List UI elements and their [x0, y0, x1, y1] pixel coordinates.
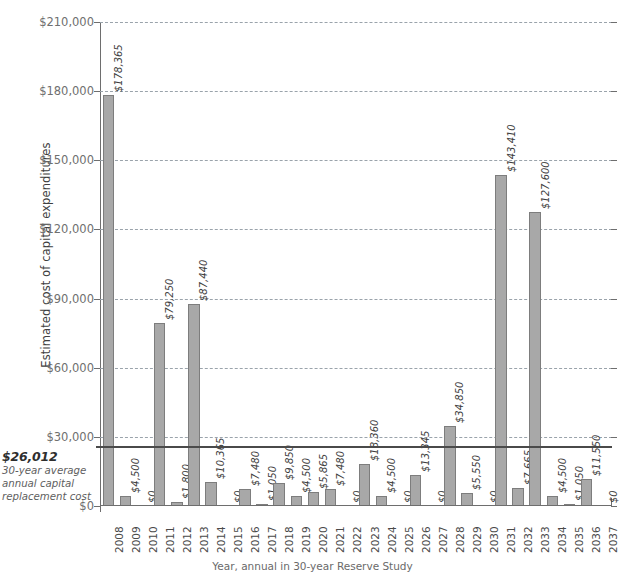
x-axis-label-2016: 2016: [249, 526, 261, 553]
bar-2032: [512, 488, 524, 506]
bar-2013: [188, 304, 200, 506]
bar-label-2019: $4,500: [301, 458, 312, 493]
chart-root: Estimated cost of capital expenditures $…: [0, 0, 625, 572]
average-desc-line-3: replacement cost: [2, 491, 96, 504]
x-axis-label-2030: 2030: [488, 526, 500, 553]
x-axis-label-2023: 2023: [369, 526, 381, 553]
x-axis-label-2037: 2037: [607, 526, 619, 553]
bar-2031: [495, 175, 507, 506]
y-axis-tick-label: $120,000: [39, 222, 94, 236]
bar-label-2034: $4,500: [557, 458, 568, 493]
bar-label-2031: $143,410: [506, 125, 517, 173]
x-axis-label-2022: 2022: [351, 526, 363, 553]
x-axis-label-2025: 2025: [403, 526, 415, 553]
x-axis-label-2035: 2035: [573, 526, 585, 553]
chart-caption: Year, annual in 30-year Reserve Study: [0, 560, 625, 572]
bar-2023: [359, 464, 371, 506]
x-axis-label-2036: 2036: [590, 526, 602, 553]
x-axis-label-2018: 2018: [283, 526, 295, 553]
x-axis-label-2017: 2017: [266, 526, 278, 553]
bar-label-2036: $11,550: [591, 435, 602, 476]
bar-series: $178,365$4,500$0$79,250$1,800$87,440$10,…: [100, 22, 612, 506]
average-description: 30-year average annual capital replaceme…: [2, 465, 96, 503]
x-axis-label-2026: 2026: [420, 526, 432, 553]
bar-label-2023: $18,360: [369, 419, 380, 460]
y-axis-tick-label: $30,000: [46, 430, 94, 444]
x-axis-line: [100, 505, 612, 506]
bar-2008: [103, 95, 115, 506]
x-axis-label-2024: 2024: [386, 526, 398, 553]
x-axis-label-2020: 2020: [317, 526, 329, 553]
bar-2014: [205, 482, 217, 506]
x-axis-label-2028: 2028: [454, 526, 466, 553]
x-axis-label-2013: 2013: [198, 526, 210, 553]
bar-label-2014: $10,365: [215, 438, 226, 479]
x-axis-label-2012: 2012: [181, 526, 193, 553]
x-axis-label-2019: 2019: [300, 526, 312, 553]
y-axis-tick-labels: $0$30,000$60,000$90,000$120,000$150,000$…: [0, 22, 94, 506]
x-axis-label-2008: 2008: [113, 526, 125, 553]
bar-2026: [410, 475, 422, 506]
average-line: [96, 446, 612, 448]
x-axis-label-2034: 2034: [556, 526, 568, 553]
y-axis-tick-label: $180,000: [39, 84, 94, 98]
plot-area: $178,365$4,500$0$79,250$1,800$87,440$10,…: [100, 22, 612, 506]
average-annotation: $26,012 30-year average annual capital r…: [2, 449, 96, 503]
x-axis-label-2033: 2033: [539, 526, 551, 553]
x-axis-label-2029: 2029: [471, 526, 483, 553]
bar-2021: [325, 489, 337, 506]
bar-2018: [273, 483, 285, 506]
bar-label-2026: $13,345: [420, 431, 431, 472]
x-axis-label-2010: 2010: [147, 526, 159, 553]
bar-label-2024: $4,500: [386, 458, 397, 493]
x-axis-label-2009: 2009: [130, 526, 142, 553]
bar-2028: [444, 426, 456, 506]
bar-2016: [239, 489, 251, 506]
y-axis-tick-label: $60,000: [46, 361, 94, 375]
bar-label-2021: $7,480: [335, 451, 346, 486]
y-axis-tick-label: $90,000: [46, 292, 94, 306]
x-axis-label-2014: 2014: [215, 526, 227, 553]
bar-label-2018: $9,850: [284, 445, 295, 480]
bar-label-2008: $178,365: [113, 44, 124, 92]
x-axis-label-2011: 2011: [164, 526, 176, 553]
bar-label-2037: $0: [608, 490, 619, 503]
bar-label-2020: $5,865: [318, 454, 329, 489]
bar-label-2016: $7,480: [250, 451, 261, 486]
average-desc-line-1: 30-year average: [2, 465, 96, 478]
y-axis-tick-label: $150,000: [39, 153, 94, 167]
x-axis-tick-labels: 2008200920102011201220132014201520162017…: [100, 509, 612, 555]
x-axis-label-2027: 2027: [437, 526, 449, 553]
bar-2033: [529, 212, 541, 506]
bar-label-2013: $87,440: [198, 260, 209, 301]
average-value: $26,012: [2, 449, 96, 464]
x-axis-label-2031: 2031: [505, 526, 517, 553]
average-desc-line-2: annual capital: [2, 478, 96, 491]
x-axis-label-2032: 2032: [522, 526, 534, 553]
bar-label-2029: $5,550: [471, 455, 482, 490]
bar-label-2033: $127,600: [540, 161, 551, 209]
bar-label-2009: $4,500: [130, 458, 141, 493]
y-axis-tick-label: $210,000: [39, 15, 94, 29]
bar-label-2011: $79,250: [164, 279, 175, 320]
x-axis-label-2021: 2021: [334, 526, 346, 553]
x-axis-label-2015: 2015: [232, 526, 244, 553]
bar-2036: [581, 479, 593, 506]
bar-2011: [154, 323, 166, 506]
bar-2020: [308, 492, 320, 506]
bar-label-2028: $34,850: [454, 381, 465, 422]
